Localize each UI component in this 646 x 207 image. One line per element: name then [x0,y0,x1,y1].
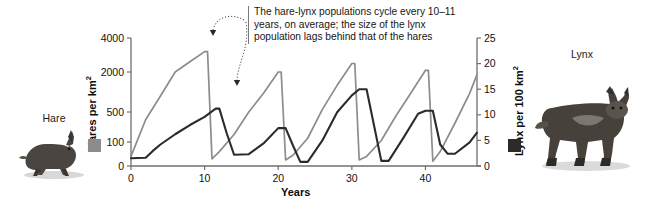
right-axis-tick-label: 25 [484,32,496,44]
tick-labels-group: 0100500200040000510152025010203040 [101,32,496,184]
x-axis-tick-label: 30 [346,172,358,184]
right-axis-tick-label: 5 [484,134,490,146]
right-axis-tick-label: 20 [484,57,496,69]
right-axis-tick-label: 0 [484,160,490,172]
left-axis-tick-label: 500 [106,106,124,118]
lynx-peak-arrow-head [234,80,240,86]
right-axis-tick-label: 10 [484,108,496,120]
data-series-group [131,52,477,162]
hare-peak-arrow-leader [213,16,244,30]
lynx-caption-label: Lynx [530,48,634,60]
right-axis-tick-label: 15 [484,83,496,95]
left-axis-tick-label: 2000 [101,66,125,78]
series-line-hare [131,52,477,162]
x-axis-tick-label: 20 [272,172,284,184]
annotation-arrows-group [210,16,247,86]
left-axis-tick-label: 100 [106,136,124,148]
left-axis-tick-label: 4000 [101,32,125,44]
lynx-peak-arrow-leader [237,22,247,80]
series-line-lynx [131,89,477,162]
x-axis-tick-label: 10 [199,172,211,184]
hare-peak-arrow-head [210,30,216,36]
hare-lynx-population-figure: Hare Hares per km2 Lynx per 100 km2 The … [0,0,646,207]
x-axis-tick-label: 40 [420,172,432,184]
axes-group [127,38,481,170]
lynx-photo [532,62,640,174]
lynx-legend-block: Lynx [530,48,642,198]
x-axis-tick-label: 0 [128,172,134,184]
left-axis-tick-label: 0 [118,160,124,172]
